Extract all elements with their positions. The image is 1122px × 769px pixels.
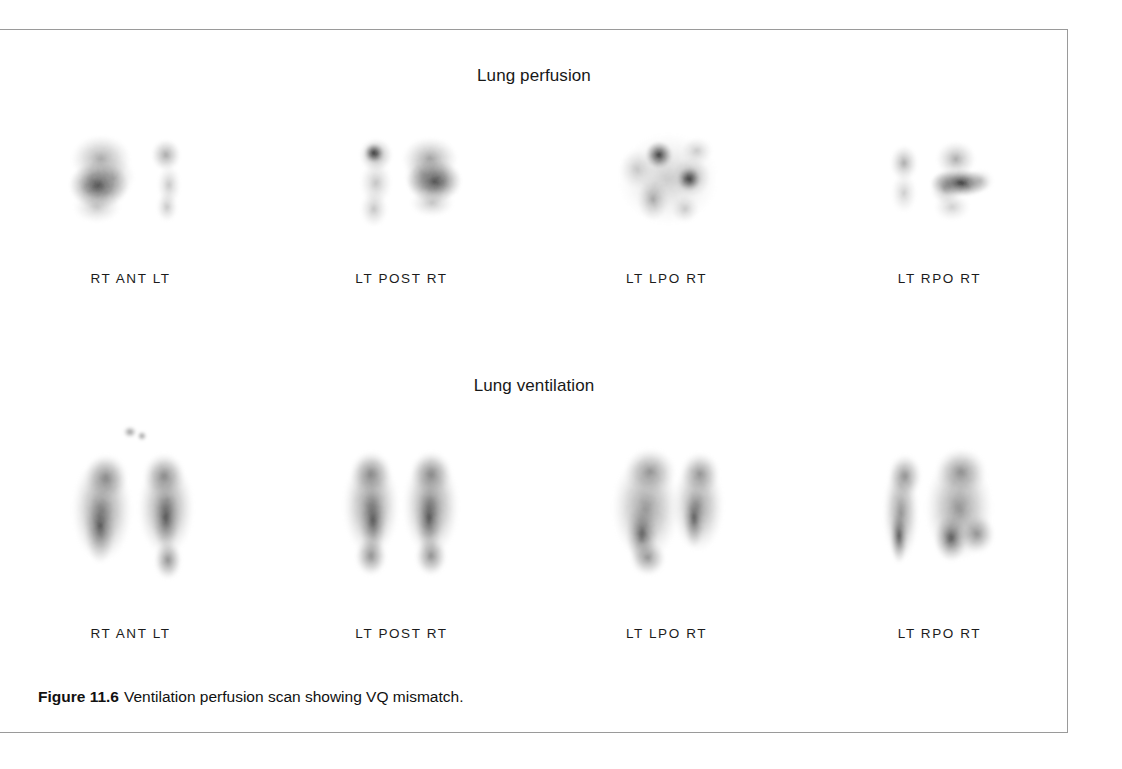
scintigram-ventilation-rpo xyxy=(835,414,1035,614)
figure-caption-text: Ventilation perfusion scan showing VQ mi… xyxy=(124,688,463,705)
scintigram-perfusion-post xyxy=(306,107,496,257)
scan-panel-ventilation-lpo: LT LPO RT xyxy=(534,414,801,679)
scan-row-perfusion: RT ANT LT xyxy=(0,107,1068,322)
view-label-ventilation-ant: RT ANT LT xyxy=(90,626,170,641)
figure-caption: Figure 11.6Ventilation perfusion scan sh… xyxy=(38,688,463,706)
view-label-perfusion-rpo: LT RPO RT xyxy=(898,271,981,286)
section-heading-perfusion: Lung perfusion xyxy=(0,66,1068,86)
scan-panel-perfusion-rpo: LT RPO RT xyxy=(801,107,1068,322)
figure-body: Lung perfusion xyxy=(0,29,1068,733)
scintigram-perfusion-lpo xyxy=(573,107,763,257)
view-label-ventilation-rpo: LT RPO RT xyxy=(898,626,981,641)
scintigram-ventilation-ant xyxy=(34,414,234,614)
scintigram-perfusion-rpo xyxy=(840,107,1030,257)
figure-caption-label: Figure 11.6 xyxy=(38,688,119,705)
scintigram-ventilation-lpo xyxy=(568,414,768,614)
scan-panel-perfusion-post: LT POST RT xyxy=(267,107,534,322)
section-heading-ventilation: Lung ventilation xyxy=(0,376,1068,396)
scan-panel-perfusion-lpo: LT LPO RT xyxy=(534,107,801,322)
scan-panel-perfusion-ant: RT ANT LT xyxy=(0,107,267,322)
scan-panel-ventilation-ant: RT ANT LT xyxy=(0,414,267,679)
scintigram-ventilation-post xyxy=(301,414,501,614)
view-label-perfusion-ant: RT ANT LT xyxy=(90,271,170,286)
view-label-ventilation-post: LT POST RT xyxy=(355,626,447,641)
scan-panel-ventilation-post: LT POST RT xyxy=(267,414,534,679)
view-label-ventilation-lpo: LT LPO RT xyxy=(626,626,707,641)
scan-panel-ventilation-rpo: LT RPO RT xyxy=(801,414,1068,679)
view-label-perfusion-post: LT POST RT xyxy=(355,271,447,286)
view-label-perfusion-lpo: LT LPO RT xyxy=(626,271,707,286)
scintigram-perfusion-ant xyxy=(39,107,229,257)
scan-row-ventilation: RT ANT LT xyxy=(0,414,1068,679)
